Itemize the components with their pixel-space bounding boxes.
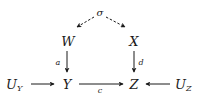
node-u-y-subscript: Y — [17, 84, 23, 93]
edge-label-a: a — [56, 58, 61, 67]
edge-sigma-to-w — [77, 17, 94, 27]
node-x: X — [128, 34, 139, 49]
node-u-y: UY — [6, 77, 23, 93]
causal-diagram: σ W X Y Z UY UZ a d c — [0, 0, 201, 97]
edge-sigma-to-x — [106, 17, 125, 27]
edge-label-c: c — [98, 86, 103, 95]
node-sigma: σ — [97, 7, 105, 18]
node-z: Z — [128, 77, 139, 92]
node-u-z: UZ — [175, 77, 192, 93]
node-u-z-subscript: Z — [185, 84, 192, 93]
edge-label-d: d — [138, 58, 143, 67]
node-y: Y — [63, 77, 73, 92]
node-w: W — [61, 34, 76, 49]
